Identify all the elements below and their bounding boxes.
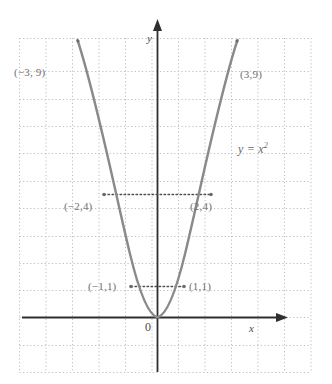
point-marker-pos1 [182, 285, 186, 289]
x-axis-label: x [249, 322, 254, 334]
point-label-pos2: (2,4) [190, 200, 212, 212]
point-marker-neg1 [129, 285, 133, 289]
plot-canvas [0, 0, 332, 384]
point-label-neg3: (−3, 9) [14, 66, 45, 78]
point-label-neg1: (−1,1) [88, 280, 116, 292]
y-axis-label: y [147, 32, 152, 44]
point-marker-neg2 [102, 193, 106, 197]
point-label-pos1: (1,1) [189, 280, 211, 292]
equation-label: y = x2 [238, 140, 268, 155]
y-axis-arrowhead [153, 19, 162, 31]
graph-figure: (−3, 9) (3,9) (−2,4) (2,4) (−1,1) (1,1) … [0, 0, 332, 384]
origin-label: 0 [145, 321, 151, 333]
point-marker-pos2 [209, 193, 213, 197]
equation-base: y = x [238, 142, 264, 156]
equation-exponent: 2 [264, 141, 268, 150]
point-label-neg2: (−2,4) [64, 200, 92, 212]
point-label-pos3: (3,9) [240, 68, 262, 80]
x-axis-arrowhead [276, 313, 288, 322]
point-marker-pos3 [235, 39, 238, 42]
point-marker-neg3 [76, 39, 79, 42]
